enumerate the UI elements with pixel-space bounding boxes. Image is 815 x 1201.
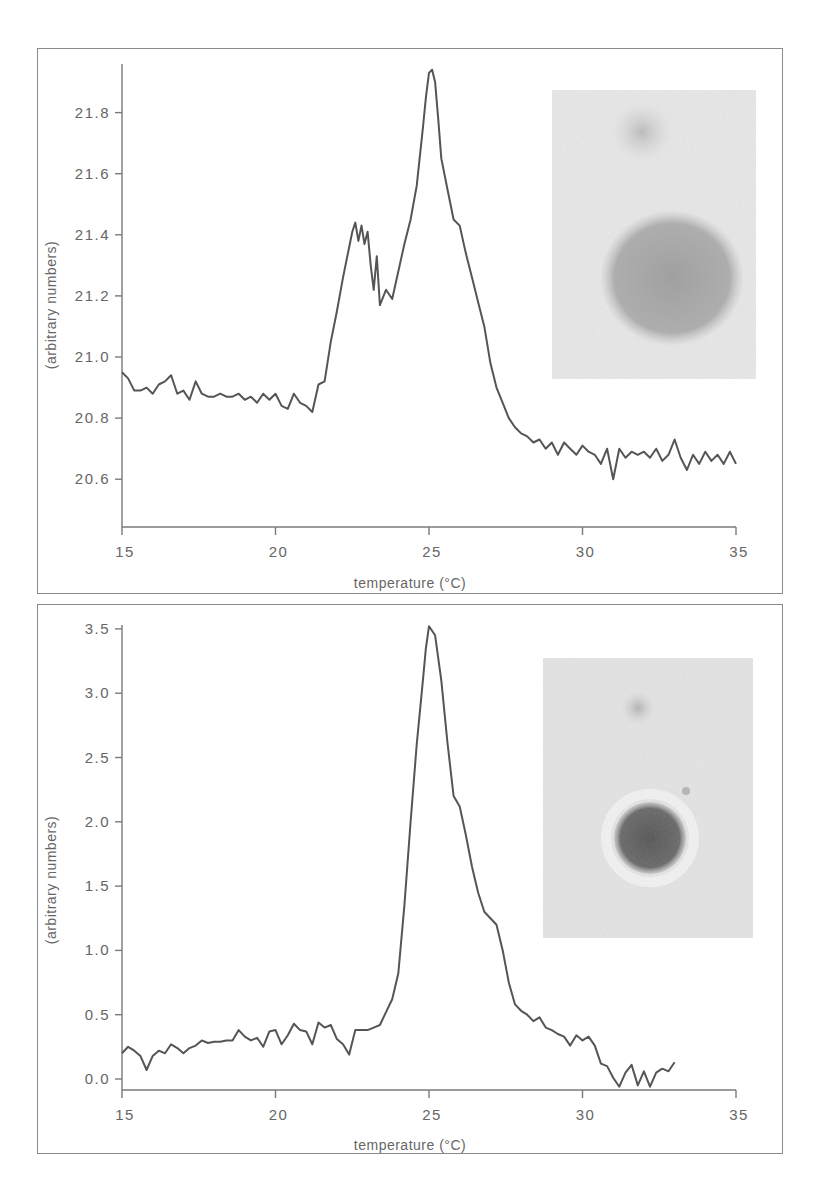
top-signal-line	[122, 70, 736, 479]
x-tick-label: 25	[422, 543, 442, 560]
y-tick-label: 3.0	[85, 684, 110, 701]
top-x-ticks: 1520253035	[115, 527, 749, 560]
x-tick-label: 20	[269, 1106, 289, 1123]
y-tick-label: 0.5	[85, 1006, 110, 1023]
x-tick-label: 25	[422, 1106, 442, 1123]
x-tick-label: 15	[115, 543, 135, 560]
bottom-signal-line	[122, 626, 675, 1086]
top-y-axis-title: (arbitrary numbers)	[43, 241, 59, 370]
y-tick-label: 3.5	[85, 620, 110, 637]
y-tick-label: 1.5	[85, 877, 110, 894]
y-tick-label: 21.8	[75, 104, 110, 121]
y-tick-label: 21.2	[75, 287, 110, 304]
x-tick-label: 30	[576, 543, 596, 560]
y-tick-label: 0.0	[85, 1070, 110, 1087]
y-tick-label: 1.0	[85, 941, 110, 958]
top-chart: 20.620.821.021.221.421.621.8 1520253035 …	[43, 64, 749, 591]
bottom-y-ticks: 0.00.51.01.52.02.53.03.5	[85, 620, 122, 1087]
bottom-x-ticks: 1520253035	[115, 1090, 749, 1123]
x-tick-label: 30	[576, 1106, 596, 1123]
x-tick-label: 20	[269, 543, 289, 560]
y-tick-label: 21.6	[75, 165, 110, 182]
x-tick-label: 15	[115, 1106, 135, 1123]
y-tick-label: 20.6	[75, 470, 110, 487]
bottom-chart: 0.00.51.01.52.02.53.03.5 1520253035 temp…	[43, 620, 749, 1153]
x-tick-label: 35	[729, 543, 749, 560]
top-y-ticks: 20.620.821.021.221.421.621.8	[75, 104, 122, 488]
bottom-x-axis-title: temperature (°C)	[354, 1137, 466, 1153]
y-tick-label: 2.5	[85, 749, 110, 766]
y-tick-label: 21.4	[75, 226, 110, 243]
y-tick-label: 21.0	[75, 348, 110, 365]
charts-canvas: 20.620.821.021.221.421.621.8 1520253035 …	[0, 0, 815, 1201]
bottom-y-axis-title: (arbitrary numbers)	[43, 816, 59, 945]
x-tick-label: 35	[729, 1106, 749, 1123]
y-tick-label: 2.0	[85, 813, 110, 830]
top-x-axis-title: temperature (°C)	[354, 575, 466, 591]
y-tick-label: 20.8	[75, 409, 110, 426]
